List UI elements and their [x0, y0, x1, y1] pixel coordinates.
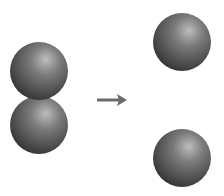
- dissociation-diagram: [0, 0, 224, 196]
- reaction-arrow: [97, 94, 127, 106]
- product-atom-top: [153, 13, 211, 71]
- product-atom-bottom: [153, 129, 211, 187]
- molecule: [10, 42, 68, 154]
- molecule-atom-bottom: [10, 96, 68, 154]
- product-atoms: [153, 13, 211, 187]
- molecule-atom-top: [10, 42, 68, 100]
